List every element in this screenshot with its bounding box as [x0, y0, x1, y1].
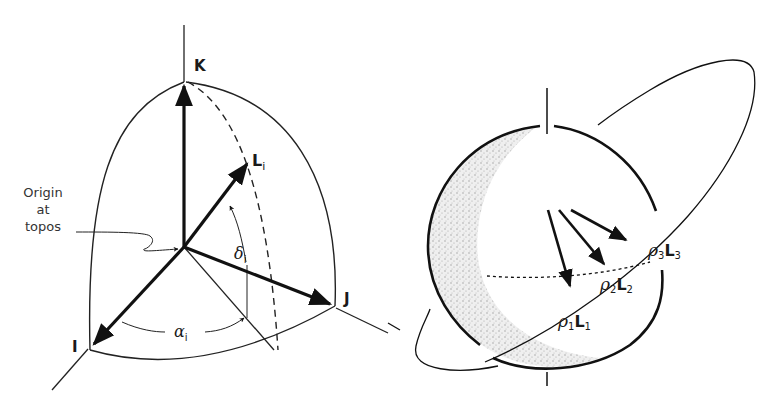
j-axis-line [336, 308, 388, 333]
delta-main: δ [234, 244, 244, 263]
origin-note-line2: at [36, 202, 49, 217]
l3-sub: 3 [675, 250, 681, 261]
projection-line [184, 247, 274, 350]
rho2-label: ρ2L2 [599, 274, 633, 295]
octant-left-arc [90, 82, 184, 350]
alpha-sub: i [185, 332, 188, 343]
rho2-symbol: ρ [599, 274, 610, 294]
alpha-arc-right [205, 318, 244, 332]
alpha-label: αi [174, 322, 188, 343]
l-vector [184, 164, 247, 247]
right-figure: ρ1L1 ρ2L2 ρ3L3 [388, 60, 755, 386]
alpha-arc-left [122, 322, 165, 332]
meridian-dashed [188, 82, 278, 350]
l3-symbol: L [664, 241, 674, 260]
i-axis-label: I [72, 338, 78, 356]
l2-sub: 2 [627, 284, 633, 295]
l-vector-label: Li [252, 151, 265, 173]
delta-sub: i [244, 254, 247, 265]
delta-label: δi [234, 244, 246, 265]
j-axis-label: J [343, 290, 350, 308]
rho3-label: ρ3L3 [647, 240, 681, 261]
origin-pointer [76, 232, 178, 251]
orbit-stub-left [388, 323, 400, 330]
i-axis-line [52, 349, 88, 390]
origin-note-line1: Origin [23, 185, 62, 200]
k-axis-label: K [194, 57, 207, 75]
i-vector [94, 247, 184, 344]
orbit-line [485, 60, 755, 362]
l1-sub: 1 [585, 321, 591, 332]
rho1-label: ρ1L1 [557, 311, 591, 332]
octant-right-arc [186, 82, 335, 306]
l-main: L [252, 151, 262, 170]
rho1-vector [548, 210, 570, 286]
left-figure: K J I Li δi αi Origin at topos [23, 25, 388, 390]
alpha-main: α [174, 322, 185, 341]
j-vector [184, 247, 330, 304]
diagram-canvas: K J I Li δi αi Origin at topos [0, 0, 774, 411]
l-sub: i [262, 160, 265, 173]
octant-bottom-arc [90, 306, 335, 360]
rho2-vector [559, 210, 604, 264]
l1-symbol: L [574, 312, 584, 331]
l2-symbol: L [616, 275, 626, 294]
rho3-symbol: ρ [647, 240, 658, 260]
earth-outline-top-right [554, 126, 656, 211]
origin-note-line3: topos [25, 219, 61, 234]
rho1-symbol: ρ [557, 311, 568, 331]
